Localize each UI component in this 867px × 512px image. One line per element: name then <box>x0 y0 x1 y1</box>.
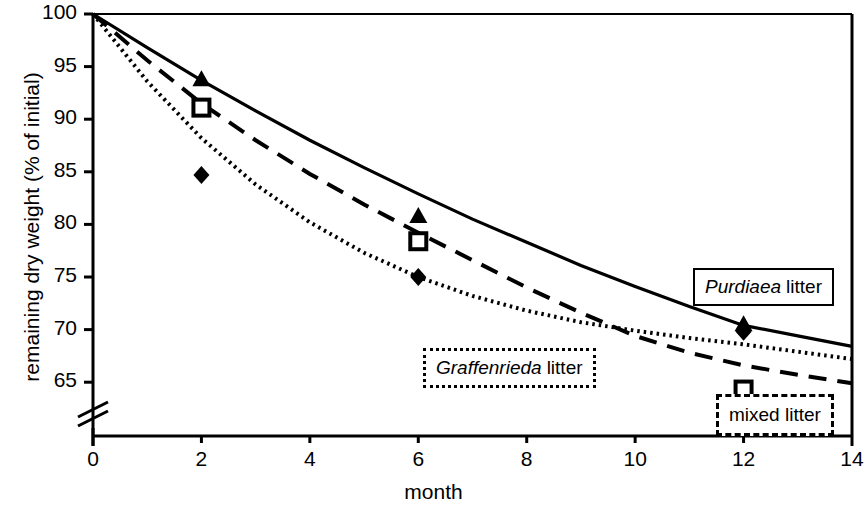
y-tick-label: 100 <box>17 0 77 24</box>
legend-label-mixed: mixed litter <box>716 394 834 436</box>
marker-square <box>193 100 209 116</box>
chart-figure: 65707580859095100 02468101214 remaining … <box>0 0 867 512</box>
legend-graffenrieda-species: Graffenrieda <box>436 357 547 379</box>
marker-diamond <box>193 166 209 184</box>
x-tick-label: 2 <box>171 447 231 471</box>
x-tick-label: 10 <box>605 447 665 471</box>
marker-square <box>410 233 426 249</box>
x-tick-label: 6 <box>388 447 448 471</box>
x-axis-title: month <box>0 480 867 504</box>
legend-mixed-plain: mixed litter <box>729 404 821 426</box>
legend-label-purdiaea: Purdiaealitter <box>693 268 834 306</box>
series-graffenrieda-litter <box>93 14 852 359</box>
legend-graffenrieda-plain: litter <box>547 357 583 379</box>
legend-purdiaea-plain: litter <box>786 276 822 298</box>
y-axis-title: remaining dry weight (% of initial) <box>20 27 44 427</box>
x-tick-label: 14 <box>822 447 867 471</box>
x-tick-label: 8 <box>497 447 557 471</box>
x-tick-label: 12 <box>714 447 774 471</box>
marker-diamond <box>410 268 426 286</box>
marker-triangle <box>409 207 427 223</box>
x-tick-label: 4 <box>280 447 340 471</box>
fit-curve-dotted <box>93 14 852 359</box>
x-tick-label: 0 <box>63 447 123 471</box>
data-series-layer <box>93 14 852 398</box>
series-mixed-litter <box>93 14 852 398</box>
legend-purdiaea-species: Purdiaea <box>705 276 786 298</box>
legend-label-graffenrieda: Graffenriedalitter <box>423 348 596 388</box>
